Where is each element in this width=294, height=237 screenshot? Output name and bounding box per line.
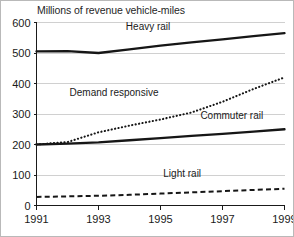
y-axis-ticks: 0100200300400500600 [12,17,36,212]
y-tick-label-100: 100 [12,169,30,181]
series-label-heavy-rail: Heavy rail [126,21,170,32]
series-line-light-rail [37,189,285,197]
y-tick-label-500: 500 [12,47,30,59]
x-tick-label-1997: 1997 [210,213,234,225]
x-tick-label-1999: 1999 [272,213,294,225]
series-line-commuter-rail [37,129,285,144]
y-tick-label-600: 600 [12,17,30,29]
y-tick-label-0: 0 [24,200,30,212]
series-label-light-rail: Light rail [163,168,201,179]
chart-figure: Millions of revenue vehicle-miles 010020… [0,0,294,237]
series-label-commuter-rail: Commuter rail [200,110,263,121]
series-label-demand-responsive: Demand responsive [70,87,159,98]
x-axis-ticks: 19911993199519971999 [24,206,294,225]
series-line-heavy-rail [37,33,285,53]
line-chart-plot: 0100200300400500600 19911993199519971999… [1,1,294,237]
x-tick-label-1991: 1991 [24,213,48,225]
x-tick-label-1993: 1993 [86,213,110,225]
x-tick-label-1995: 1995 [148,213,172,225]
y-tick-label-200: 200 [12,139,30,151]
y-tick-label-400: 400 [12,78,30,90]
y-tick-label-300: 300 [12,108,30,120]
